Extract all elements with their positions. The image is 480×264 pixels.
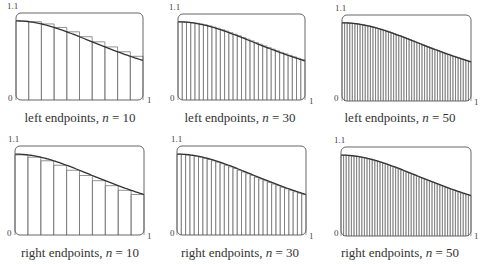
y-tick-top: 1.1 (169, 2, 180, 12)
riemann-plot-left-10: 1.1 0 1 left endpoints, n = 10 (0, 0, 160, 132)
y-tick-top: 1.1 (7, 1, 18, 11)
x-tick-right: 1 (309, 96, 314, 106)
riemann-rectangles (177, 154, 306, 235)
riemann-plot-left-30: 1.1 0 1 left endpoints, n = 30 (160, 0, 320, 132)
plot-caption: right endpoints, n = 30 (160, 245, 320, 261)
y-tick-bottom: 0 (170, 93, 175, 103)
x-tick-right: 1 (474, 231, 479, 241)
x-tick-right: 1 (147, 231, 152, 241)
plot-caption: right endpoints, n = 10 (0, 245, 160, 261)
y-tick-top: 1.1 (8, 134, 19, 144)
plot-caption: left endpoints, n = 10 (0, 110, 160, 126)
y-tick-top: 1.1 (171, 134, 182, 144)
y-tick-top: 1.1 (335, 3, 346, 13)
plot-caption: left endpoints, n = 30 (160, 110, 320, 126)
riemann-plot-right-30: 1.1 0 1 right endpoints, n = 30 (160, 132, 320, 264)
riemann-plot-right-10: 1.1 0 1 right endpoints, n = 10 (0, 132, 160, 264)
riemann-rectangles (341, 155, 471, 236)
riemann-rectangles (342, 23, 471, 101)
riemann-rectangles (178, 22, 305, 100)
y-tick-bottom: 0 (7, 228, 12, 238)
riemann-rectangles (16, 21, 143, 100)
riemann-plot-right-50: 1.1 0 1 right endpoints, n = 50 (320, 132, 480, 264)
riemann-plot-left-50: 1.1 0 1 left endpoints, n = 50 (320, 0, 480, 132)
y-tick-bottom: 0 (334, 93, 339, 103)
y-tick-bottom: 0 (8, 93, 13, 103)
x-tick-right: 1 (474, 97, 479, 107)
riemann-rectangles (15, 155, 144, 235)
y-tick-top: 1.1 (334, 135, 345, 145)
plot-caption: left endpoints, n = 50 (320, 110, 480, 126)
x-tick-right: 1 (309, 231, 314, 241)
y-tick-bottom: 0 (334, 228, 339, 238)
x-tick-right: 1 (147, 95, 152, 105)
y-tick-bottom: 0 (170, 228, 175, 238)
plot-caption: right endpoints, n = 50 (320, 245, 480, 261)
